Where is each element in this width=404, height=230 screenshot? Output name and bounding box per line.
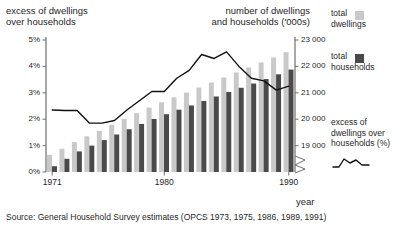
bar-total-dwellings: [172, 97, 177, 172]
x-tick-1971: 1971: [32, 177, 72, 187]
bar-total-households: [102, 140, 107, 172]
bar-total-dwellings: [271, 57, 276, 172]
bar-total-dwellings: [209, 83, 214, 173]
bar-total-dwellings: [59, 149, 64, 172]
y-left-tick-3: 3%: [16, 88, 40, 97]
bar-total-households: [127, 129, 132, 172]
bar-total-households: [64, 159, 69, 172]
plot-area: [0, 0, 404, 230]
bar-total-dwellings: [284, 52, 289, 172]
y-left-tick-4: 4%: [16, 61, 40, 70]
bar-total-dwellings: [134, 113, 139, 172]
bar-total-households: [251, 84, 256, 172]
bar-total-dwellings: [246, 67, 251, 172]
bar-total-households: [226, 92, 231, 172]
bar-total-households: [189, 105, 194, 172]
bar-total-dwellings: [84, 136, 89, 172]
bar-total-households: [152, 119, 157, 172]
bar-total-dwellings: [72, 142, 77, 172]
bar-total-dwellings: [122, 119, 127, 172]
bar-total-households: [201, 101, 206, 172]
y-left-tick-2: 2%: [16, 114, 40, 123]
bar-total-dwellings: [159, 102, 164, 172]
bar-total-households: [139, 124, 144, 172]
bar-total-households: [289, 70, 294, 172]
legend-label-total-households: total households: [331, 51, 374, 72]
x-tick-1990: 1990: [269, 177, 309, 187]
legend-label-excess-line: excess of dwellings over households (%): [331, 117, 390, 149]
y-right-tick-21000: 21 000: [301, 88, 341, 97]
bar-total-households: [114, 135, 119, 172]
x-axis-label: year: [296, 196, 314, 207]
bar-total-dwellings: [147, 108, 152, 172]
axis-break-icon: [295, 156, 305, 173]
bar-total-dwellings: [109, 125, 114, 172]
source-note: Source: General Household Survey estimat…: [6, 212, 326, 222]
legend-label-total-dwellings: total dwellings: [331, 8, 366, 29]
bar-total-dwellings: [47, 155, 52, 172]
y-left-tick-0: 0%: [16, 167, 40, 176]
bar-total-households: [264, 79, 269, 172]
bar-total-households: [214, 97, 219, 173]
x-tick-1980: 1980: [144, 177, 184, 187]
legend-line-icon: [331, 155, 371, 171]
bar-total-dwellings: [259, 62, 264, 172]
bar-total-dwellings: [234, 72, 239, 172]
bar-total-dwellings: [184, 93, 189, 172]
bar-total-households: [164, 114, 169, 172]
legend-line-glyph: [333, 159, 369, 167]
y-right-tick-23000: 23 000: [301, 35, 341, 44]
bar-total-dwellings: [196, 88, 201, 172]
bar-total-dwellings: [97, 131, 102, 172]
bar-total-households: [89, 146, 94, 172]
y-left-tick-1: 1%: [16, 141, 40, 150]
bar-total-households: [77, 151, 82, 172]
y-left-tick-5: 5%: [16, 35, 40, 44]
chart-figure: excess of dwellings over households numb…: [0, 0, 404, 230]
bar-total-households: [52, 166, 57, 172]
bar-total-households: [176, 110, 181, 172]
bar-total-households: [239, 88, 244, 172]
bar-total-dwellings: [221, 77, 226, 172]
